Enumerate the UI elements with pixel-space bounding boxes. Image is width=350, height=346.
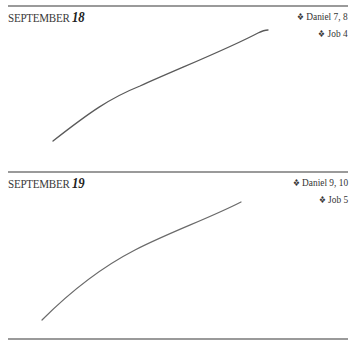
bottom-divider [8,338,348,340]
pen-stroke-icon [0,0,350,346]
